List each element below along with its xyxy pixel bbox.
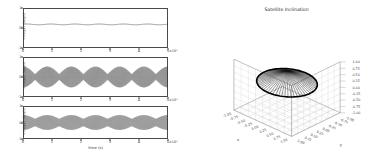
x-tick-omega1-4: 4 bbox=[138, 49, 140, 53]
z-tick-1: 0.75 bbox=[352, 67, 359, 71]
y-tick-omega2-1: 0 bbox=[19, 75, 21, 79]
x-tick-omega3-4: 4 bbox=[138, 140, 140, 144]
x-tick-omega2-1: 1 bbox=[51, 98, 53, 102]
y-axis-label-omega1: omega1 (deg/s) bbox=[22, 13, 26, 40]
z-tick-3: 0.25 bbox=[352, 79, 359, 83]
y-tick-omega2-0: 1 bbox=[19, 55, 21, 59]
x-tick-omega3-1: 1 bbox=[51, 140, 53, 144]
z-tick-2: 0.50 bbox=[352, 73, 359, 77]
y-axis-name-3d: y bbox=[340, 143, 342, 147]
x-tick-omega2-0: 0 bbox=[22, 98, 24, 102]
plot-line-omega3 bbox=[23, 106, 168, 139]
x-tick-omega2-4: 4 bbox=[138, 98, 140, 102]
x-axis-exponent-omega1: ×10⁴ bbox=[169, 49, 178, 53]
plot-line-omega1 bbox=[23, 8, 168, 48]
x-tick-omega3-2: 2 bbox=[80, 140, 82, 144]
y-axis-label-omega2: omega2 (deg/s) bbox=[22, 62, 26, 89]
y-tick-omega1-0: 1 bbox=[19, 6, 21, 10]
z-tick-0: 1.00 bbox=[352, 60, 359, 64]
z-tick-7: -0.75 bbox=[352, 105, 361, 109]
x-tick-omega1-0: 0 bbox=[22, 49, 24, 53]
subplot-omega3: omega3 (deg/s) 1 0 -1 0 1 2 3 4 5 ×10⁴ t… bbox=[23, 106, 168, 139]
z-tick-8: -1.00 bbox=[352, 111, 361, 115]
x-tick-omega2-2: 2 bbox=[80, 98, 82, 102]
timeseries-panel: omega1 (deg/s) 1 0 -1 0 1 2 3 4 5 ×10⁴ o… bbox=[0, 0, 191, 159]
z-tick-4: 0.00 bbox=[352, 86, 359, 90]
z-tick-5: -0.25 bbox=[352, 92, 361, 96]
y-tick-omega3-1: 0 bbox=[19, 121, 21, 125]
subplot-omega2: omega2 (deg/s) 1 0 -1 0 1 2 3 4 5 ×10⁴ bbox=[23, 57, 168, 97]
x-tick-omega2-3: 3 bbox=[109, 98, 111, 102]
x-axis-exponent-omega3: ×10⁴ bbox=[169, 140, 178, 144]
x-tick-omega1-3: 3 bbox=[109, 49, 111, 53]
x-axis-exponent-omega2: ×10⁴ bbox=[169, 98, 178, 102]
x-axis-label-time: time (s) bbox=[88, 145, 103, 150]
satellite-inclination-panel: Satellite Inclination 1.000.750.500.250.… bbox=[191, 0, 382, 159]
x-tick-omega3-3: 3 bbox=[109, 140, 111, 144]
y-axis-label-omega3: omega3 (deg/s) bbox=[22, 107, 26, 134]
subplot-omega1: omega1 (deg/s) 1 0 -1 0 1 2 3 4 5 ×10⁴ bbox=[23, 8, 168, 48]
y-tick-omega3-0: 1 bbox=[19, 104, 21, 108]
y-tick-omega1-1: 0 bbox=[19, 26, 21, 30]
x-tick-omega1-2: 2 bbox=[80, 49, 82, 53]
figure-canvas: omega1 (deg/s) 1 0 -1 0 1 2 3 4 5 ×10⁴ o… bbox=[0, 0, 382, 159]
x-axis-name-3d: x bbox=[237, 138, 239, 142]
z-tick-6: -0.50 bbox=[352, 98, 361, 102]
x-tick-omega3-0: 0 bbox=[22, 140, 24, 144]
plot-line-omega2 bbox=[23, 57, 168, 97]
x-tick-omega1-1: 1 bbox=[51, 49, 53, 53]
